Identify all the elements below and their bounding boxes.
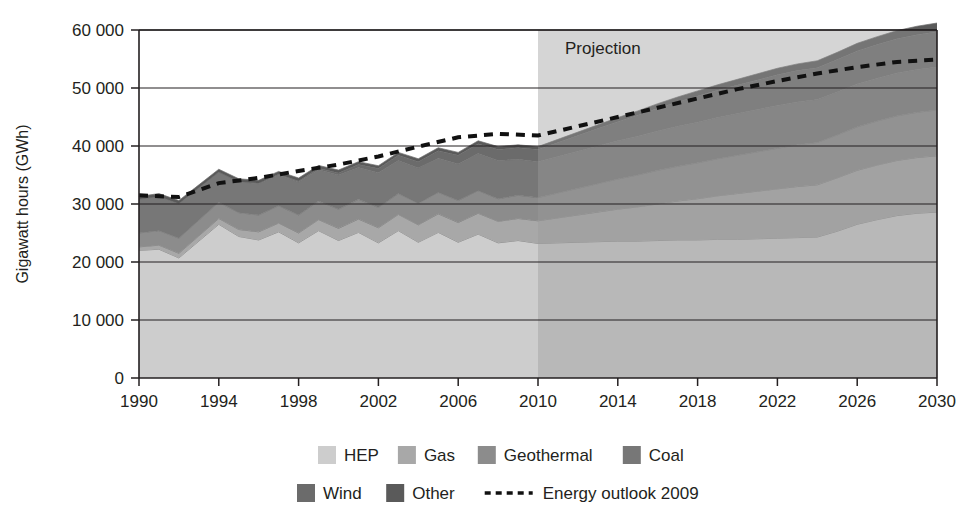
legend-swatch: [398, 446, 416, 464]
y-tick-label-40000: 40 000: [72, 137, 124, 156]
chart-canvas: 010 00020 00030 00040 00050 00060 000199…: [0, 0, 975, 524]
x-tick-label-2006: 2006: [439, 392, 477, 411]
legend-label: Geothermal: [504, 446, 593, 465]
legend-row2-item-energy-outlook-2009[interactable]: Energy outlook 2009: [485, 484, 699, 503]
x-tick-label-1990: 1990: [120, 392, 158, 411]
legend-row1-item-gas[interactable]: Gas: [398, 446, 455, 465]
legend-row1-item-geothermal[interactable]: Geothermal: [478, 446, 593, 465]
legend: HEPGasGeothermalCoalWindOtherEnergy outl…: [297, 446, 699, 503]
energy-mix-area-chart: 010 00020 00030 00040 00050 00060 000199…: [0, 0, 975, 524]
x-tick-label-2014: 2014: [599, 392, 637, 411]
y-tick-label-60000: 60 000: [72, 21, 124, 40]
y-tick-label-0: 0: [115, 369, 124, 388]
projection-label: Projection: [565, 39, 641, 58]
x-tick-label-2030: 2030: [918, 392, 956, 411]
legend-label: Coal: [649, 446, 684, 465]
x-tick-label-2010: 2010: [519, 392, 557, 411]
legend-label: Wind: [323, 484, 362, 503]
legend-row1-item-coal[interactable]: Coal: [623, 446, 684, 465]
x-tick-label-2018: 2018: [679, 392, 717, 411]
legend-label: HEP: [344, 446, 379, 465]
y-tick-label-10000: 10 000: [72, 311, 124, 330]
y-tick-label-20000: 20 000: [72, 253, 124, 272]
y-tick-label-30000: 30 000: [72, 195, 124, 214]
x-tick-label-2022: 2022: [758, 392, 796, 411]
legend-label: Gas: [424, 446, 455, 465]
x-tick-label-1998: 1998: [280, 392, 318, 411]
legend-swatch: [478, 446, 496, 464]
legend-row1-item-hep[interactable]: HEP: [318, 446, 379, 465]
legend-row2-item-wind[interactable]: Wind: [297, 484, 362, 503]
legend-row2-item-other[interactable]: Other: [386, 484, 455, 503]
legend-swatch: [623, 446, 641, 464]
x-tick-label-1994: 1994: [200, 392, 238, 411]
y-axis-title: Gigawatt hours (GWh): [14, 124, 31, 283]
legend-swatch: [297, 484, 315, 502]
legend-swatch: [318, 446, 336, 464]
y-tick-label-50000: 50 000: [72, 79, 124, 98]
legend-label: Energy outlook 2009: [543, 484, 699, 503]
x-tick-label-2026: 2026: [838, 392, 876, 411]
legend-label: Other: [412, 484, 455, 503]
legend-swatch: [386, 484, 404, 502]
x-tick-label-2002: 2002: [359, 392, 397, 411]
